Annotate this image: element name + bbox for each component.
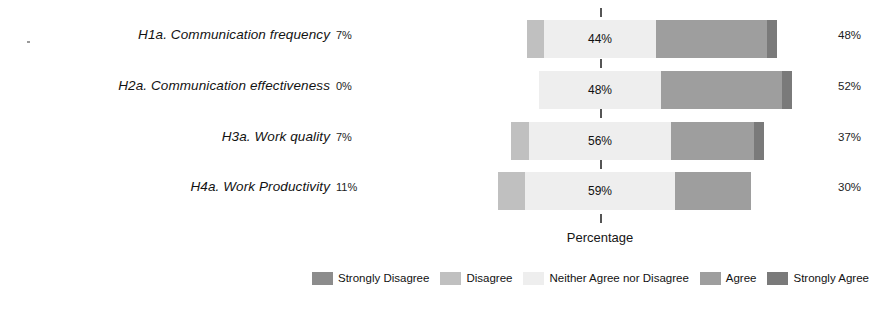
legend-swatch-icon xyxy=(700,272,721,285)
right-total-label: 37% xyxy=(838,131,883,143)
category-label: H2a. Communication effectiveness xyxy=(40,78,330,93)
chart-legend: Strongly DisagreeDisagreeNeither Agree n… xyxy=(312,272,880,285)
legend-item[interactable]: Neither Agree nor Disagree xyxy=(523,272,688,285)
legend-item[interactable]: Strongly Disagree xyxy=(312,272,429,285)
reference-dash xyxy=(600,59,602,68)
right-total-label: 48% xyxy=(838,29,883,41)
reference-dash xyxy=(600,214,602,223)
category-label: H4a. Work Productivity xyxy=(40,179,330,194)
legend-label: Neither Agree nor Disagree xyxy=(549,273,688,285)
legend-swatch-icon xyxy=(767,272,788,285)
reference-dash xyxy=(600,160,602,169)
left-total-label: 11% xyxy=(336,181,370,193)
legend-label: Agree xyxy=(726,273,757,285)
right-total-label: 30% xyxy=(838,181,883,193)
bar-segment-agree xyxy=(671,122,754,160)
category-label: H1a. Communication frequency xyxy=(40,27,330,42)
stacked-bar: 56% xyxy=(511,122,764,160)
left-total-label: 0% xyxy=(336,80,370,92)
legend-swatch-icon xyxy=(312,272,333,285)
plot-area: 56% xyxy=(424,117,824,163)
legend-item[interactable]: Disagree xyxy=(440,272,512,285)
category-label: H3a. Work quality xyxy=(40,129,330,144)
left-total-label: 7% xyxy=(336,29,370,41)
reference-dash xyxy=(600,109,602,118)
plot-area: 48% xyxy=(424,66,824,112)
chart-row: H4a. Work Productivity 11% 59% 30% xyxy=(0,167,895,213)
bar-segment-strongly-agree xyxy=(767,20,777,58)
legend-label: Disagree xyxy=(466,273,512,285)
bar-segment-disagree xyxy=(527,20,545,58)
legend-item[interactable]: Strongly Agree xyxy=(767,272,868,285)
stacked-bar: 44% xyxy=(527,20,777,58)
bar-segment-agree xyxy=(661,71,782,109)
reference-dash xyxy=(600,8,602,17)
chart-row: H3a. Work quality 7% 56% 37% xyxy=(0,117,895,163)
chart-row: H2a. Communication effectiveness 0% 48% … xyxy=(0,66,895,112)
bar-segment-strongly-agree xyxy=(782,71,792,109)
legend-label: Strongly Agree xyxy=(793,273,868,285)
bar-segment-strongly-agree xyxy=(754,122,764,160)
x-axis-title: Percentage xyxy=(500,230,700,245)
plot-area: 44% xyxy=(424,15,824,61)
bar-segment-disagree xyxy=(511,122,529,160)
stacked-bar: 59% xyxy=(498,172,751,210)
legend-swatch-icon xyxy=(440,272,461,285)
bar-segment-agree xyxy=(675,172,751,210)
likert-diverging-bar-chart: H1a. Communication frequency 7% 44% 48% … xyxy=(0,0,895,311)
legend-item[interactable]: Agree xyxy=(700,272,757,285)
bar-segment-agree xyxy=(656,20,767,58)
legend-label: Strongly Disagree xyxy=(338,273,429,285)
plot-area: 59% xyxy=(424,167,824,213)
legend-swatch-icon xyxy=(523,272,544,285)
stacked-bar: 48% xyxy=(539,71,792,109)
chart-row: H1a. Communication frequency 7% 44% 48% xyxy=(0,15,895,61)
right-total-label: 52% xyxy=(838,80,883,92)
left-total-label: 7% xyxy=(336,131,370,143)
center-reference-line xyxy=(600,8,602,223)
bar-segment-disagree xyxy=(498,172,526,210)
